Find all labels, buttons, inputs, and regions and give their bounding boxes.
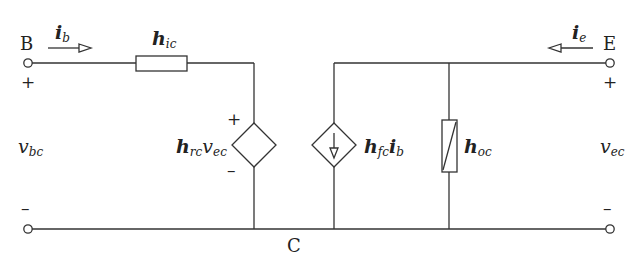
terminal-c-left bbox=[24, 225, 32, 233]
node-label-b: B bbox=[20, 35, 33, 53]
node-label-e: E bbox=[603, 35, 616, 53]
circuit-diagram bbox=[0, 0, 633, 268]
dependent-current-source bbox=[312, 123, 356, 167]
node-label-c: C bbox=[287, 237, 301, 255]
resistor-hoc bbox=[442, 120, 457, 172]
polarity-plus-vsource: + bbox=[227, 111, 241, 128]
polarity-minus-vsource: – bbox=[227, 162, 236, 179]
voltage-label-vbc: vbc bbox=[18, 137, 43, 158]
voltage-label-vec: vec bbox=[600, 137, 625, 158]
polarity-plus-output: + bbox=[603, 74, 617, 91]
current-label-ie: ie bbox=[572, 23, 586, 44]
label-hrc-vec: hrcvec bbox=[176, 137, 227, 158]
current-arrow-ib-icon bbox=[48, 44, 91, 52]
terminal-e bbox=[606, 59, 614, 67]
dependent-voltage-source bbox=[232, 123, 276, 167]
label-hfc-ib: hfcib bbox=[364, 137, 404, 158]
label-hic: hic bbox=[152, 29, 176, 50]
label-hoc: hoc bbox=[464, 137, 492, 158]
current-label-ib: ib bbox=[55, 23, 70, 44]
current-arrow-ie-icon bbox=[549, 44, 593, 52]
terminal-b bbox=[24, 59, 32, 67]
terminal-c-right bbox=[606, 225, 614, 233]
polarity-minus-input: – bbox=[21, 200, 30, 217]
resistor-hic bbox=[136, 56, 187, 71]
polarity-plus-input: + bbox=[21, 74, 35, 91]
polarity-minus-output: – bbox=[603, 200, 612, 217]
